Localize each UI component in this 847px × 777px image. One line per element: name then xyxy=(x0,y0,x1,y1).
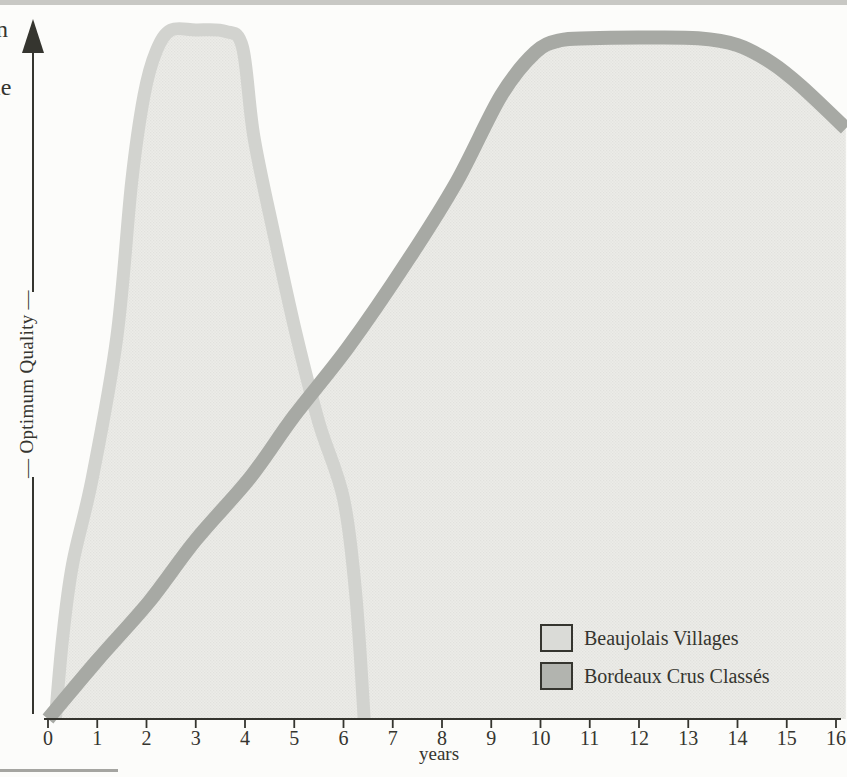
x-tick-label: 10 xyxy=(531,727,551,749)
x-tick-label: 11 xyxy=(580,727,599,749)
x-tick-label: 0 xyxy=(43,727,53,749)
y-axis-label: — Optimum Quality — xyxy=(16,289,37,478)
legend-label-beaujolais: Beaujolais Villages xyxy=(584,627,739,650)
chart-legend: Beaujolais Villages Bordeaux Crus Classé… xyxy=(540,624,770,690)
legend-swatch-bordeaux xyxy=(540,662,573,690)
legend-row-beaujolais: Beaujolais Villages xyxy=(540,624,770,652)
x-tick-label: 1 xyxy=(92,727,102,749)
x-tick-label: 13 xyxy=(678,727,698,749)
x-tick-label: 5 xyxy=(289,727,299,749)
x-tick-label: 6 xyxy=(339,727,349,749)
x-tick-label: 14 xyxy=(728,727,748,749)
x-tick-label: 12 xyxy=(629,727,649,749)
x-tick-label: 9 xyxy=(486,727,496,749)
y-axis-arrowhead xyxy=(22,19,44,53)
x-axis: 012345678910111213141516 years xyxy=(43,719,846,764)
legend-swatch-beaujolais xyxy=(540,624,573,652)
y-axis: — Optimum Quality — xyxy=(16,19,45,714)
x-tick-label: 7 xyxy=(388,727,398,749)
x-tick-label: 4 xyxy=(240,727,250,749)
legend-row-bordeaux: Bordeaux Crus Classés xyxy=(540,662,770,690)
legend-label-bordeaux: Bordeaux Crus Classés xyxy=(584,665,770,688)
cropped-page-rule-bottom-left xyxy=(0,769,118,772)
x-tick-label: 16 xyxy=(826,727,846,749)
x-tick-label: 15 xyxy=(777,727,797,749)
x-axis-title: years xyxy=(419,743,459,764)
x-tick-label: 3 xyxy=(191,727,201,749)
x-tick-label: 2 xyxy=(142,727,152,749)
